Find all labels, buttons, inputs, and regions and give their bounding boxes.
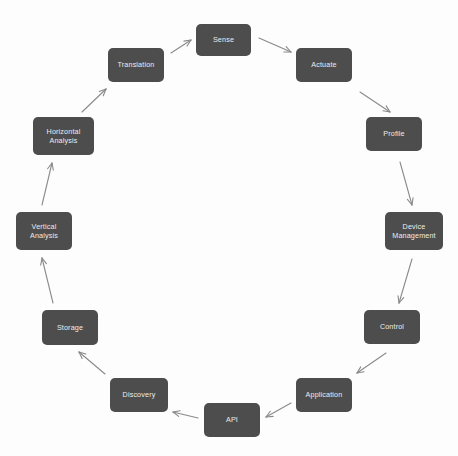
node-label-translation: Translation xyxy=(118,60,155,69)
node-storage[interactable]: Storage xyxy=(42,310,98,345)
node-label-vertical-analysis: Vertical Analysis xyxy=(30,222,58,241)
node-label-sense: Sense xyxy=(213,35,234,44)
node-horizontal-analysis[interactable]: Horizontal Analysis xyxy=(33,117,94,155)
node-label-application: Application xyxy=(306,390,343,399)
node-control[interactable]: Control xyxy=(364,310,420,344)
node-label-storage: Storage xyxy=(57,323,83,332)
node-label-actuate: Actuate xyxy=(311,60,336,69)
node-translation[interactable]: Translation xyxy=(108,48,164,82)
node-vertical-analysis[interactable]: Vertical Analysis xyxy=(16,212,72,250)
arrow-sense-to-actuate xyxy=(259,38,291,52)
arrow-storage-to-vertical-analysis xyxy=(41,258,53,303)
arrow-discovery-to-storage xyxy=(79,352,105,374)
arrow-control-to-application xyxy=(357,353,386,373)
arrow-device-management-to-control xyxy=(398,259,412,303)
node-discovery[interactable]: Discovery xyxy=(110,378,168,412)
arrow-application-to-api xyxy=(266,403,291,417)
arrow-translation-to-sense xyxy=(171,40,191,53)
node-label-api: API xyxy=(226,415,238,424)
cycle-diagram: SenseActuateProfileDevice ManagementCont… xyxy=(0,0,458,456)
arrow-vertical-to-horizontal xyxy=(42,163,53,205)
node-label-horizontal-analysis: Horizontal Analysis xyxy=(47,127,81,146)
node-api[interactable]: API xyxy=(204,403,260,437)
node-label-discovery: Discovery xyxy=(123,390,156,399)
node-label-control: Control xyxy=(380,322,404,331)
node-label-device-management: Device Management xyxy=(392,222,435,241)
node-application[interactable]: Application xyxy=(296,378,352,412)
node-actuate[interactable]: Actuate xyxy=(296,48,352,82)
arrow-actuate-to-profile xyxy=(360,92,390,112)
arrow-profile-to-device-management xyxy=(400,162,413,205)
arrow-horizontal-to-translation xyxy=(82,89,106,112)
node-device-management[interactable]: Device Management xyxy=(385,212,443,250)
arrow-api-to-discovery xyxy=(173,411,198,418)
node-label-profile: Profile xyxy=(383,129,404,138)
node-profile[interactable]: Profile xyxy=(366,117,422,151)
node-sense[interactable]: Sense xyxy=(196,24,251,56)
